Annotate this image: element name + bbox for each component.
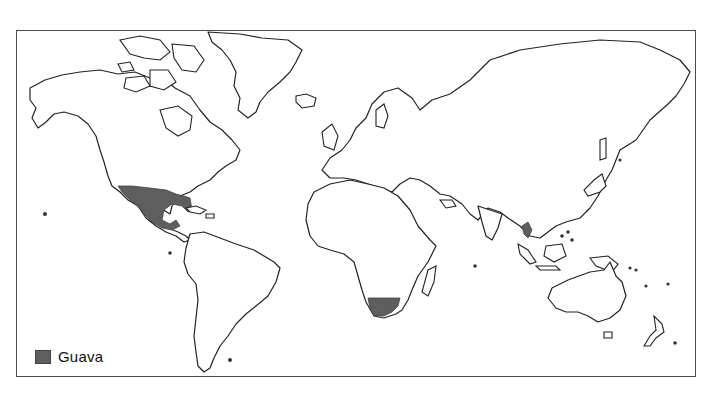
britain <box>322 124 338 150</box>
africa <box>306 180 436 318</box>
iceland <box>296 94 316 108</box>
south-america <box>184 232 280 372</box>
australia <box>548 262 626 322</box>
legend-label-guava: Guava <box>58 348 103 365</box>
legend-swatch-icon <box>35 350 51 364</box>
tasmania <box>604 332 612 338</box>
world-map <box>0 0 718 394</box>
new-zealand <box>644 316 664 346</box>
madagascar <box>422 266 436 296</box>
map-legend: Guava <box>35 348 103 365</box>
greenland <box>208 32 302 118</box>
